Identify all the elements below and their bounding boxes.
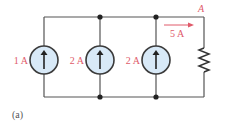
- source-label-1: 1 A: [14, 55, 29, 66]
- junction-dot: [153, 14, 158, 19]
- resistor: [199, 48, 209, 72]
- current-arrow-label: 5 A: [170, 28, 185, 39]
- node-label: A: [197, 3, 205, 14]
- arrow-right-icon: [188, 23, 194, 28]
- current-source-3: [142, 46, 170, 74]
- junction-dot: [97, 14, 102, 19]
- current-source-2: [86, 46, 114, 74]
- junction-dot: [153, 94, 158, 99]
- circuit-diagram: 1 A 2 A 2 A 5 A A (a): [0, 0, 227, 129]
- source-label-3: 2 A: [126, 55, 141, 66]
- current-source-1: [30, 46, 58, 74]
- source-label-2: 2 A: [70, 55, 85, 66]
- figure-caption: (a): [12, 109, 23, 121]
- junction-dot: [97, 94, 102, 99]
